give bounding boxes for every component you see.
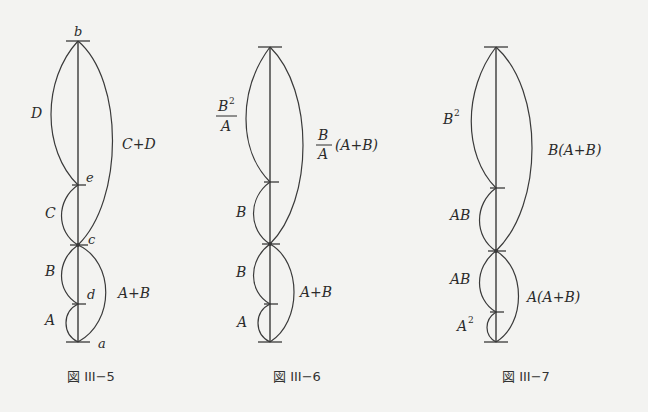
- svg-text:A: A: [219, 118, 231, 134]
- arc-AB-lower: [480, 251, 497, 312]
- node-label-d: d: [87, 287, 95, 302]
- arc-B-lower: [254, 244, 271, 304]
- diagram-canvas: b e c d a D C B A C+D A+B 図 III−5 B 2: [0, 0, 648, 412]
- label-D: D: [30, 105, 42, 121]
- svg-text:2: 2: [468, 315, 474, 325]
- label-A-plus-B: A+B: [298, 284, 332, 300]
- label-A-plus-B: A+B: [116, 285, 150, 301]
- label-B-times-A-plus-B: B(A+B): [547, 142, 601, 158]
- arc-A: [66, 304, 78, 342]
- label-AB-lower: AB: [448, 271, 470, 287]
- label-B-lower: B: [235, 264, 246, 280]
- arc-A-times-A-plus-B: [496, 251, 519, 342]
- arc-B2-over-A: [246, 47, 270, 182]
- label-B: B: [44, 263, 55, 279]
- svg-text:A: A: [455, 318, 467, 334]
- svg-text:B: B: [442, 111, 453, 127]
- arc-D: [51, 41, 78, 185]
- arc-A-plus-B: [270, 244, 294, 342]
- node-label-b: b: [74, 24, 82, 39]
- figure-caption: 図 III−6: [273, 369, 321, 384]
- svg-text:A: A: [316, 146, 328, 162]
- label-B-over-A-times-A-plus-B: B A (A+B): [316, 127, 378, 162]
- label-B2: B 2: [442, 108, 460, 127]
- svg-text:B: B: [317, 127, 328, 143]
- arc-C-plus-D: [78, 41, 113, 245]
- label-AB-upper: AB: [448, 207, 470, 223]
- figure-caption: 図 III−5: [67, 369, 115, 384]
- figure-III-6: B 2 A B B A B A (A+B) A+B 図 III−6: [216, 47, 378, 384]
- svg-text:2: 2: [454, 108, 460, 118]
- figure-III-5: b e c d a D C B A C+D A+B 図 III−5: [30, 24, 156, 384]
- node-label-c: c: [88, 232, 96, 247]
- svg-text:2: 2: [229, 96, 235, 106]
- label-A: A: [43, 312, 55, 328]
- arc-B-upper: [254, 182, 271, 244]
- arc-A: [258, 304, 270, 342]
- label-A2: A 2: [455, 315, 474, 334]
- arc-B-times-A-plus-B: [496, 47, 532, 251]
- figure-caption: 図 III−7: [502, 369, 550, 384]
- node-label-a: a: [98, 336, 106, 351]
- label-C-plus-D: C+D: [122, 136, 156, 152]
- arc-AB-upper: [480, 188, 497, 251]
- arc-C: [62, 185, 79, 245]
- label-C: C: [45, 205, 56, 221]
- svg-text:(A+B): (A+B): [335, 137, 378, 153]
- arc-B2: [471, 47, 496, 188]
- label-A: A: [235, 314, 247, 330]
- figure-III-7: B 2 AB AB A 2 B(A+B) A(A+B) 図 III−7: [442, 47, 601, 384]
- svg-text:B: B: [217, 98, 228, 114]
- label-B-upper: B: [235, 204, 246, 220]
- arc-B-over-A-times-A-plus-B: [270, 47, 303, 244]
- label-A-times-A-plus-B: A(A+B): [525, 289, 580, 305]
- label-B2-over-A: B 2 A: [216, 96, 237, 134]
- node-label-e: e: [86, 170, 94, 185]
- arc-A2: [487, 312, 496, 342]
- arc-B: [62, 245, 79, 304]
